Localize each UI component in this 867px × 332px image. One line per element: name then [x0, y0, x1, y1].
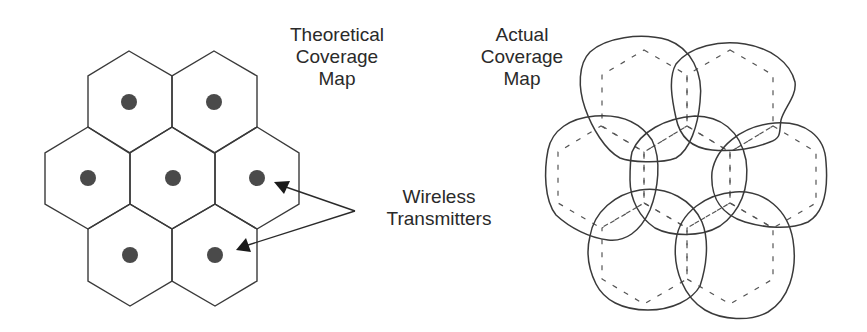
- transmitter-dot: [165, 170, 181, 186]
- title-line: Map: [282, 68, 392, 90]
- coverage-region: [712, 123, 827, 227]
- dashed-hex-cell: [602, 50, 687, 152]
- transmitter-dot: [249, 170, 265, 186]
- title-line: Actual: [474, 24, 570, 46]
- coverage-diagram: [0, 0, 867, 332]
- coverage-region: [588, 189, 706, 310]
- callout-arrows: [245, 186, 355, 246]
- title-line: Coverage: [282, 46, 392, 68]
- transmitter-dot: [121, 94, 137, 110]
- title-line: Coverage: [474, 46, 570, 68]
- coverage-region: [580, 36, 700, 161]
- transmitter-dot: [207, 247, 223, 263]
- coverage-region: [671, 43, 795, 151]
- arrow-line: [245, 211, 355, 246]
- label-line: Wireless: [374, 186, 504, 208]
- wireless-transmitters-label: Wireless Transmitters: [374, 186, 504, 230]
- actual-dashed-hex-grid: [558, 50, 816, 304]
- actual-coverage-map-title: Actual Coverage Map: [474, 24, 570, 90]
- actual-coverage-regions: [546, 36, 827, 318]
- title-line: Theoretical: [282, 24, 392, 46]
- title-line: Map: [474, 68, 570, 90]
- arrowheads: [236, 181, 290, 252]
- transmitter-dot: [80, 170, 96, 186]
- transmitter-dot: [206, 94, 222, 110]
- transmitter-dot: [122, 247, 138, 263]
- label-line: Transmitters: [374, 208, 504, 230]
- theoretical-coverage-map-title: Theoretical Coverage Map: [282, 24, 392, 90]
- coverage-region: [546, 116, 658, 241]
